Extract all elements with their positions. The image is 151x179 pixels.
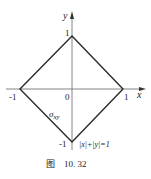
region-label: σxy [49,109,61,121]
y-axis-arrow-icon [70,11,74,19]
tick-x-pos: 1 [124,92,129,102]
tick-y-neg: -1 [59,139,67,149]
diagram-figure: y x 0 1 -1 1 -1 σxy |x|+|y|=1 图10. 32 [0,0,151,179]
x-axis [6,87,146,91]
tick-y-pos: 1 [65,28,70,38]
origin-label: 0 [65,92,70,102]
y-axis [70,11,74,150]
figure-caption: 图10. 32 [46,159,87,169]
tick-x-neg: -1 [9,92,17,102]
x-axis-label: x [136,89,142,100]
equation-label: |x|+|y|=1 [79,140,110,149]
y-axis-label: y [62,10,68,21]
